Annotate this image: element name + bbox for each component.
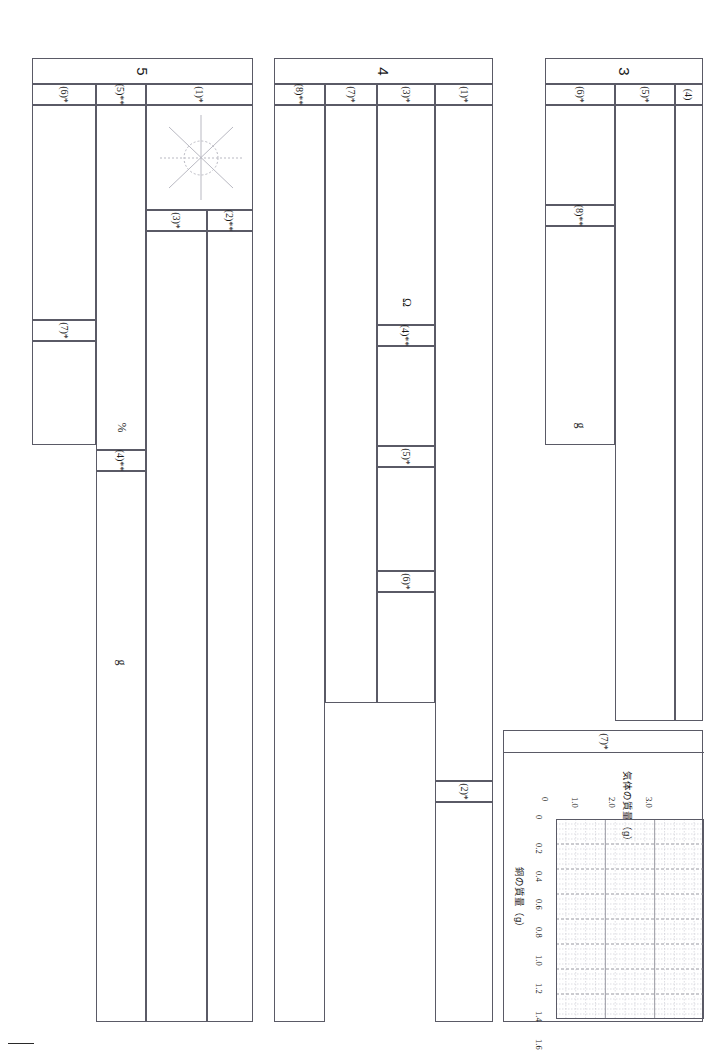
chart-ytick-2-text: 2.0 [607, 797, 617, 808]
block-4-header-q2: (2)* [435, 781, 493, 802]
chart-xtick-0-text: 0 [534, 815, 544, 819]
chart-xtick-7: 1.4 [534, 1011, 544, 1022]
chart-ytick-0-text: 0 [540, 797, 550, 801]
block-5-header-q6: (6)* [32, 84, 96, 105]
chart-ytick-2: 2.0 [607, 797, 617, 808]
compass-star-diagram [156, 110, 246, 205]
block-5-answer-q6[interactable] [32, 105, 96, 320]
block-3-answer-q4[interactable] [675, 105, 703, 721]
block-5-header-q5-label: (5)** [115, 84, 126, 106]
block-4-header-q4-label: (4)** [400, 325, 411, 347]
chart-xlabel: 銅の質量（g） [513, 867, 527, 932]
graph-panel: (7)* 気体の質量（g） 銅の質量（g） 0 1.0 2.0 3.0 0 0.… [503, 730, 703, 1022]
block-4-unit-ohm: Ω [377, 280, 435, 325]
block-3-header-q4-label: (4) [683, 89, 694, 101]
block-5-header-q3-label: (3)* [171, 212, 182, 229]
block-5-unit-gram-label: g [114, 660, 129, 666]
chart-xlabel-text: 銅の質量（g） [514, 867, 525, 932]
block-5-header-q4: (4)** [96, 450, 146, 471]
block-5-header-q6-label: (6)* [58, 86, 69, 103]
block-4-answer-q8[interactable] [274, 105, 325, 1022]
block-4-header-q1-label: (1)* [458, 86, 469, 103]
block-5-answer-q2[interactable] [207, 231, 253, 1022]
chart-xtick-3-text: 0.6 [534, 899, 544, 910]
graph-panel-header-label: (7)* [598, 733, 609, 750]
block-3-answer-q6[interactable] [545, 105, 615, 205]
block-5-answer-q4[interactable] [96, 471, 146, 1022]
block-5-header-q7-label: (7)* [58, 322, 69, 339]
chart-xtick-8: 1.6 [534, 1039, 544, 1050]
block-4-answer-q4[interactable] [377, 346, 435, 446]
block-4-header-q3: (3)* [377, 84, 435, 105]
chart-xtick-8-text: 1.6 [534, 1039, 544, 1050]
block-3-header-q5: (5)* [615, 84, 675, 105]
block-4-answer-q2[interactable] [435, 802, 493, 1022]
block-3-unit-gram-label: g [573, 422, 588, 428]
chart-xtick-5-text: 1.0 [534, 955, 544, 966]
block-3-header-q6-label: (6)* [574, 86, 585, 103]
block-4-header-q6-label: (6)* [400, 573, 411, 590]
page-corner-mark [8, 1043, 34, 1044]
chart-ytick-1: 1.0 [570, 797, 580, 808]
block-4-header-q1: (1)* [435, 84, 493, 105]
block-5-header-q4-label: (4)** [115, 450, 126, 472]
block-4-answer-q7[interactable] [325, 105, 377, 703]
chart-xtick-2: 0.4 [534, 871, 544, 882]
chart-xtick-0: 0 [534, 815, 544, 819]
chart-ytick-3-text: 3.0 [644, 797, 654, 808]
block-4-header-q5: (5)* [377, 446, 435, 467]
block-4-number-label: 4 [375, 67, 392, 75]
block-5-unit-percent-label: % [114, 423, 129, 433]
block-3-answer-q5[interactable] [615, 105, 675, 721]
block-3-number-label: 3 [616, 67, 633, 75]
chart-xtick-4: 0.8 [534, 927, 544, 938]
block-5-header-q2-label: (2)** [224, 210, 235, 232]
block-5-answer-q5[interactable] [96, 105, 146, 450]
chart-plot-grid[interactable] [556, 819, 704, 1019]
block-4-answer-q5[interactable] [377, 467, 435, 571]
block-4-header-q5-label: (5)* [400, 448, 411, 465]
chart-xtick-6: 1.2 [534, 983, 544, 994]
block-5-header-q3: (3)* [146, 210, 207, 231]
block-3-header-q5-label: (5)* [639, 86, 650, 103]
block-3-header-q8-label: (8)** [574, 205, 585, 227]
graph-panel-header: (7)* [504, 731, 704, 753]
block-5-answer-q7[interactable] [32, 341, 96, 445]
block-3-header-q8: (8)** [545, 205, 615, 226]
block-5-unit-percent: % [96, 405, 146, 450]
block-4-answer-q6[interactable] [377, 592, 435, 703]
chart-xtick-6-text: 1.2 [534, 983, 544, 994]
block-5-header-q7: (7)* [32, 320, 96, 341]
block-4-header-q2-label: (2)* [458, 783, 469, 800]
chart-xtick-3: 0.6 [534, 899, 544, 910]
block-3-number: 3 [545, 58, 703, 84]
block-3-header-q6: (6)* [545, 84, 615, 105]
chart-xtick-1: 0.2 [534, 843, 544, 854]
block-4-header-q3-label: (3)* [400, 86, 411, 103]
block-5-header-q1: (1)* [146, 84, 253, 105]
block-4-answer-q1[interactable] [435, 105, 493, 781]
block-4-unit-ohm-label: Ω [398, 298, 413, 307]
chart-xtick-5: 1.0 [534, 955, 544, 966]
chart-xtick-2-text: 0.4 [534, 871, 544, 882]
chart-xtick-1-text: 0.2 [534, 843, 544, 854]
block-3-unit-gram: g [545, 405, 615, 445]
block-3-header-q4: (4) [675, 84, 703, 105]
chart-ytick-1-text: 1.0 [570, 797, 580, 808]
block-4-number: 4 [274, 58, 493, 84]
block-4-header-q8: (8)** [274, 84, 325, 105]
block-4-header-q7: (7)* [325, 84, 377, 105]
block-5-answer-q3[interactable] [146, 231, 207, 1022]
chart-xtick-7-text: 1.4 [534, 1011, 544, 1022]
block-4-header-q6: (6)* [377, 571, 435, 592]
block-5-header-q1-label: (1)* [194, 86, 205, 103]
block-5-header-q5: (5)** [96, 84, 146, 105]
block-4-header-q8-label: (8)** [294, 84, 305, 106]
block-4-header-q7-label: (7)* [345, 86, 356, 103]
block-4-header-q4: (4)** [377, 325, 435, 346]
block-5-unit-gram: g [96, 640, 146, 685]
block-5-header-q2: (2)** [207, 210, 253, 231]
chart-ytick-3: 3.0 [644, 797, 654, 808]
block-5-number-label: 5 [134, 67, 151, 75]
